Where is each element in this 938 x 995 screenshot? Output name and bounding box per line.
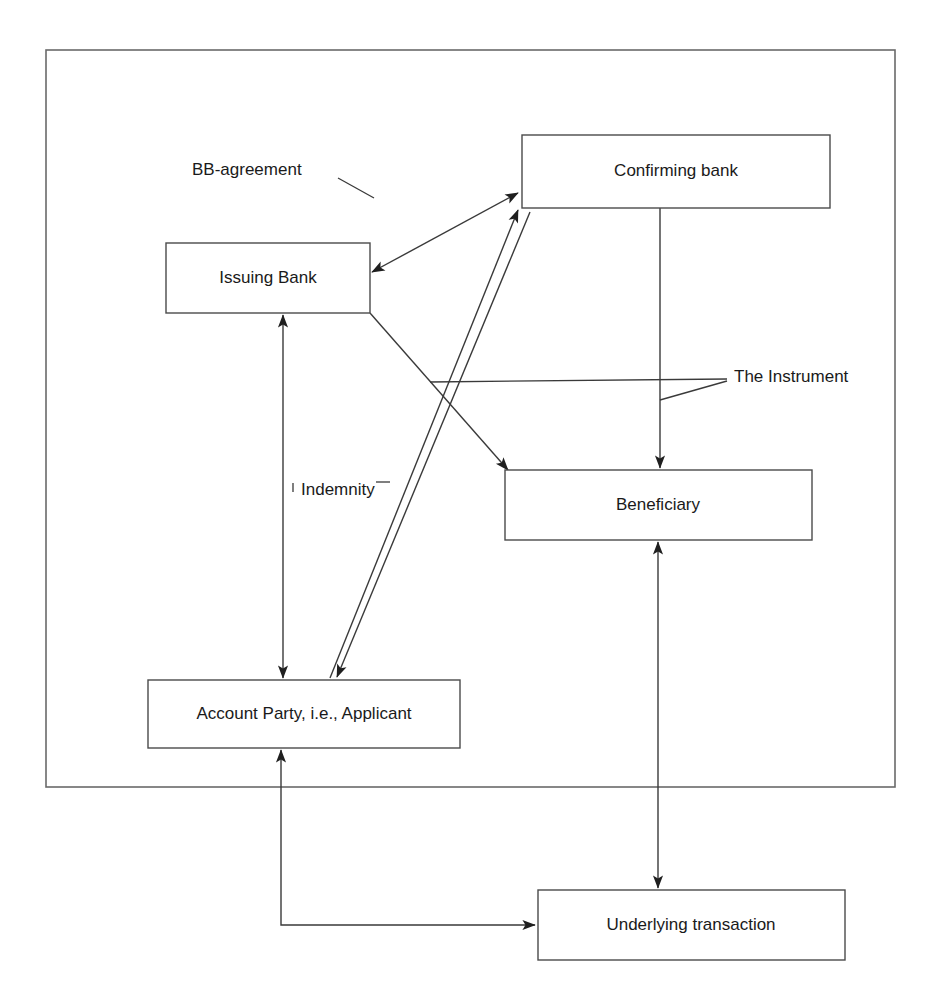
node-confirming-bank[interactable]: Confirming bank: [522, 135, 830, 208]
issuing-bank-label: Issuing Bank: [219, 268, 317, 287]
node-underlying-transaction[interactable]: Underlying transaction: [538, 890, 845, 960]
annotation-label-layer: BB-agreement Indemnity The Instrument: [192, 160, 849, 499]
the-instrument-leader-diagonal: [660, 381, 727, 400]
the-instrument-leader-horizontal: [430, 379, 727, 382]
connector-account-party-underlying-transaction: [281, 750, 535, 925]
node-account-party[interactable]: Account Party, i.e., Applicant: [148, 680, 460, 748]
the-instrument-label: The Instrument: [734, 367, 849, 386]
bb-agreement-leader-line: [338, 178, 374, 198]
underlying-transaction-label: Underlying transaction: [606, 915, 775, 934]
annotation-leader-layer: [293, 178, 727, 492]
instrument-relationship-diagram: Confirming bank Issuing Bank Beneficiary…: [0, 0, 938, 995]
bb-agreement-label: BB-agreement: [192, 160, 302, 179]
connector-issuing-bank-confirming-bank: [372, 193, 518, 272]
confirming-bank-label: Confirming bank: [614, 161, 738, 180]
node-beneficiary[interactable]: Beneficiary: [505, 470, 812, 540]
node-issuing-bank[interactable]: Issuing Bank: [166, 243, 370, 313]
indemnity-label: Indemnity: [301, 480, 375, 499]
node-layer: Confirming bank Issuing Bank Beneficiary…: [148, 135, 845, 960]
connector-issuing-bank-beneficiary: [370, 313, 508, 470]
account-party-label: Account Party, i.e., Applicant: [196, 704, 411, 723]
beneficiary-label: Beneficiary: [616, 495, 701, 514]
diagram-page: Confirming bank Issuing Bank Beneficiary…: [0, 0, 938, 995]
